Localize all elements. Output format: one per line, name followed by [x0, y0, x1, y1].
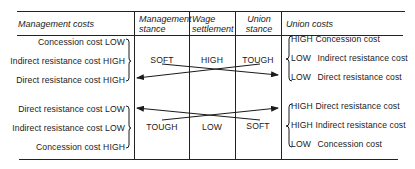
brace-icon [126, 39, 131, 148]
arrow-icon [137, 108, 278, 120]
arrow-icon [137, 64, 278, 78]
brace-icon [286, 36, 292, 147]
diagram-overlay [0, 0, 415, 169]
